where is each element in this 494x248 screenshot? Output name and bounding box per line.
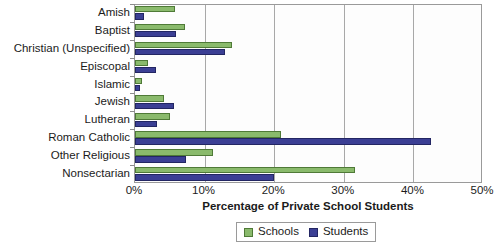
y-axis-tick	[130, 40, 135, 41]
bar-schools	[135, 149, 213, 155]
bar-schools	[135, 6, 175, 12]
bar-schools	[135, 95, 164, 101]
category-label: Episcopal	[80, 61, 130, 73]
category-label: Lutheran	[85, 115, 130, 127]
legend-swatch-schools-icon	[244, 228, 253, 237]
chart-legend: Schools Students	[236, 222, 376, 242]
legend-entry-schools: Schools	[244, 226, 299, 238]
x-tick-label: 50%	[470, 185, 493, 197]
bar-students	[135, 138, 431, 144]
category-label: Amish	[98, 7, 130, 19]
bar-students	[135, 67, 156, 73]
x-tick-label: 30%	[331, 185, 354, 197]
bar-students	[135, 156, 186, 162]
bar-students	[135, 174, 274, 180]
chart-row: Lutheran	[0, 111, 492, 129]
x-tick-label: 10%	[192, 185, 215, 197]
chart-row: Islamic	[0, 76, 492, 94]
category-label: Christian (Unspecified)	[14, 43, 130, 55]
x-tick-label: 20%	[262, 185, 285, 197]
bar-students	[135, 31, 176, 37]
bar-schools	[135, 113, 170, 119]
x-axis-title: Percentage of Private School Students	[134, 200, 482, 212]
bar-schools	[135, 24, 185, 30]
category-label: Baptist	[95, 25, 130, 37]
bar-students	[135, 103, 174, 109]
y-axis-tick	[130, 93, 135, 94]
y-axis-tick	[130, 4, 135, 5]
bar-students	[135, 13, 144, 19]
category-label: Jewish	[95, 97, 130, 109]
chart-row: Roman Catholic	[0, 129, 492, 147]
y-axis-tick	[130, 165, 135, 166]
x-axis-tick-labels: 0%10%20%30%40%50%	[0, 185, 492, 199]
bar-schools	[135, 167, 355, 173]
x-tick-label: 0%	[126, 185, 143, 197]
chart-row: Baptist	[0, 22, 492, 40]
category-label: Other Religious	[51, 150, 130, 162]
legend-swatch-students-icon	[309, 228, 318, 237]
legend-label-schools: Schools	[258, 226, 299, 238]
y-axis-tick	[130, 129, 135, 130]
bar-schools	[135, 78, 142, 84]
category-label: Nonsectarian	[62, 168, 130, 180]
y-axis-tick	[130, 22, 135, 23]
bar-students	[135, 85, 140, 91]
chart-row: Christian (Unspecified)	[0, 40, 492, 58]
bar-schools	[135, 42, 232, 48]
legend-entry-students: Students	[309, 226, 368, 238]
bar-schools	[135, 131, 281, 137]
category-label: Roman Catholic	[48, 132, 130, 144]
bar-students	[135, 49, 225, 55]
legend-label-students: Students	[323, 226, 368, 238]
category-label: Islamic	[94, 79, 130, 91]
y-axis-tick	[130, 58, 135, 59]
chart-row: Amish	[0, 4, 492, 22]
y-axis-tick	[130, 111, 135, 112]
category-rows: AmishBaptistChristian (Unspecified)Episc…	[0, 4, 492, 183]
chart-row: Episcopal	[0, 58, 492, 76]
bar-students	[135, 121, 157, 127]
chart-row: Jewish	[0, 93, 492, 111]
x-tick-label: 40%	[401, 185, 424, 197]
y-axis-tick	[130, 76, 135, 77]
y-axis-tick	[130, 147, 135, 148]
bar-schools	[135, 60, 148, 66]
chart-row: Nonsectarian	[0, 165, 492, 183]
chart-row: Other Religious	[0, 147, 492, 165]
